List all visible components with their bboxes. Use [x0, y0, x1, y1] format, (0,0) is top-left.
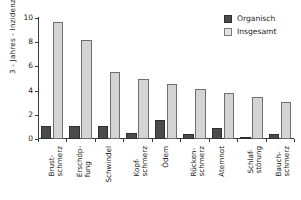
bar-insgesamt: [138, 79, 149, 140]
bar-group: [123, 18, 151, 139]
x-tick: [38, 139, 39, 142]
bar-organisch: [183, 134, 194, 139]
x-tick: [152, 139, 153, 142]
x-category-label: Rücken- schmerz: [190, 146, 206, 176]
x-category-label: Schwindel: [105, 146, 113, 182]
bar-organisch: [155, 120, 166, 139]
bar-group: [152, 18, 180, 139]
x-category-label: Atemnot: [218, 146, 226, 177]
y-tick-label: 0: [28, 135, 33, 143]
x-tick: [180, 139, 181, 142]
y-tick-label: 8: [28, 38, 33, 46]
legend-item-organisch: Organisch: [224, 12, 277, 25]
legend-swatch-organisch-icon: [224, 15, 232, 23]
bar-insgesamt: [195, 89, 206, 139]
bar-organisch: [69, 126, 80, 139]
bar-chart: 3 - Jahres - Inzidenz 0246810 Brust- sch…: [0, 0, 301, 200]
bar-group: [180, 18, 208, 139]
bar-insgesamt: [281, 102, 292, 140]
x-category-label: Ödem: [162, 146, 170, 168]
x-category-label: Brust- schmerz: [48, 146, 64, 176]
x-tick: [266, 139, 267, 142]
y-tick-label: 10: [23, 14, 33, 22]
y-tick-label: 4: [28, 87, 33, 95]
bar-organisch: [240, 137, 251, 139]
bar-organisch: [98, 126, 109, 139]
bar-organisch: [41, 126, 52, 139]
bar-group: [95, 18, 123, 139]
y-axis-title: 3 - Jahres - Inzidenz: [8, 0, 17, 92]
x-category-label: Kopf- schmerz: [133, 146, 149, 176]
bar-insgesamt: [81, 40, 92, 139]
bar-organisch: [269, 134, 280, 139]
bar-group: [66, 18, 94, 139]
legend-swatch-insgesamt-icon: [224, 28, 232, 36]
x-tick: [66, 139, 67, 142]
bar-organisch: [212, 128, 223, 139]
bar-organisch: [126, 133, 137, 139]
y-tick-label: 6: [28, 63, 33, 71]
bar-insgesamt: [53, 22, 64, 139]
x-category-label: Schlaf- störung: [247, 146, 263, 174]
x-tick: [237, 139, 238, 142]
x-tick: [209, 139, 210, 142]
bar-insgesamt: [224, 93, 235, 139]
chart-legend: Organisch Insgesamt: [224, 12, 277, 38]
y-tick-label: 2: [28, 111, 33, 119]
x-tick: [123, 139, 124, 142]
bar-insgesamt: [252, 97, 263, 139]
legend-item-insgesamt: Insgesamt: [224, 25, 277, 38]
x-category-label: Erschöp- fung: [76, 146, 92, 177]
legend-label-insgesamt: Insgesamt: [237, 28, 277, 36]
x-tick: [294, 139, 295, 142]
legend-label-organisch: Organisch: [237, 15, 275, 23]
x-tick: [95, 139, 96, 142]
x-category-label: Bauch- schmerz: [275, 146, 291, 176]
bar-insgesamt: [110, 72, 121, 139]
x-axis-category-labels: Brust- schmerzErschöp- fungSchwindelKopf…: [38, 146, 294, 200]
bar-group: [38, 18, 66, 139]
bar-insgesamt: [167, 84, 178, 139]
